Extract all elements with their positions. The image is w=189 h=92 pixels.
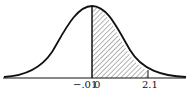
shaded-area [92, 6, 148, 78]
label-zero: 0 [94, 80, 100, 90]
normal-curve-figure: −.01 0 2.1 [0, 0, 189, 92]
label-2-1: 2.1 [142, 80, 158, 90]
